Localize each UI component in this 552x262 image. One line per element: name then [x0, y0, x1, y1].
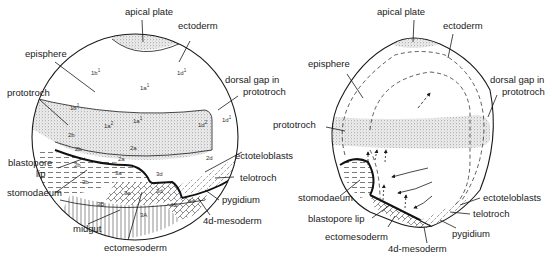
embryo-diagram: 1b1 1d1 1a1 1b1 1a2 1a1 1d2 1d1 2b 2b 2a… — [0, 0, 552, 262]
svg-text:lip: lip — [36, 168, 46, 179]
svg-text:3a: 3a — [115, 170, 122, 176]
label-apical-plate: apical plate — [125, 6, 173, 17]
label-dorsal-gap-right: dorsal gap in — [490, 74, 544, 85]
label-ectoteloblasts: ectoteloblasts — [235, 150, 293, 161]
label-telotroch: telotroch — [240, 172, 276, 183]
svg-text:prototroch: prototroch — [502, 86, 545, 97]
label-4d-mesoderm-right: 4d-mesoderm — [388, 243, 447, 254]
label-blastopore-lip: blastopore — [8, 157, 52, 168]
label-blastopore-lip-right: blastopore lip — [308, 213, 365, 224]
label-ectoderm-right: ectoderm — [443, 20, 483, 31]
label-midgut: midgut — [73, 223, 102, 234]
telotroch-region-right — [420, 198, 470, 226]
right-embryo: apical plate ectoderm episphere dorsal g… — [273, 6, 545, 254]
movement-arrows — [368, 93, 432, 208]
svg-text:2a: 2a — [130, 145, 137, 151]
label-telotroch-right: telotroch — [473, 208, 509, 219]
label-prototroch: prototroch — [7, 87, 50, 98]
svg-text:2d: 2d — [206, 155, 213, 161]
label-ectomesoderm: ectomesoderm — [104, 242, 167, 253]
svg-text:2b: 2b — [74, 162, 81, 168]
prototroch-band-right — [333, 115, 490, 149]
label-ectoteloblasts-right: ectoteloblasts — [483, 192, 541, 203]
svg-text:1a1: 1a1 — [140, 83, 150, 91]
label-pygidium: pygidium — [222, 194, 260, 205]
label-stomodaeum-right: stomodaeum — [298, 192, 353, 203]
label-4d-mesoderm: 4d-mesoderm — [203, 215, 262, 226]
svg-text:3d: 3d — [156, 171, 163, 177]
label-apical-plate-right: apical plate — [377, 6, 425, 17]
svg-text:1d1: 1d1 — [222, 115, 232, 123]
svg-text:3B: 3B — [97, 201, 104, 207]
svg-text:2b: 2b — [75, 146, 82, 152]
label-prototroch-right: prototroch — [273, 119, 316, 130]
svg-text:3d: 3d — [156, 188, 163, 194]
left-embryo: 1b1 1d1 1a1 1b1 1a2 1a1 1d2 1d1 2b 2b 2a… — [7, 6, 293, 253]
label-stomodaeum: stomodaeum — [7, 187, 62, 198]
svg-text:2a: 2a — [118, 156, 125, 162]
svg-text:prototroch: prototroch — [243, 86, 286, 97]
label-episphere: episphere — [25, 48, 67, 59]
label-episphere-right: episphere — [308, 58, 350, 69]
prototroch-band — [25, 97, 212, 160]
label-dorsal-gap: dorsal gap in — [225, 74, 279, 85]
label-pygidium-right: pygidium — [452, 228, 490, 239]
svg-text:4D: 4D — [170, 202, 178, 208]
svg-text:1b1: 1b1 — [91, 68, 101, 76]
svg-text:2b: 2b — [68, 132, 75, 138]
label-ectomesoderm-right: ectomesoderm — [325, 231, 388, 242]
svg-text:1d1: 1d1 — [177, 68, 187, 76]
svg-text:3b: 3b — [82, 179, 89, 185]
label-ectoderm: ectoderm — [178, 20, 218, 31]
svg-text:3a: 3a — [124, 190, 131, 196]
svg-text:3A: 3A — [140, 212, 147, 218]
svg-text:4d: 4d — [188, 198, 195, 204]
apical-plate-region-right — [392, 38, 440, 48]
